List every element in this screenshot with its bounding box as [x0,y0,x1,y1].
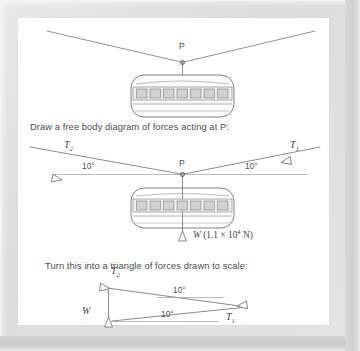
bus-window [137,89,148,98]
side-weight-arrowhead [105,317,113,327]
caption-triangle-of-forces: Turn this into a triangle of forces draw… [45,261,248,271]
bus-window [164,201,175,210]
figure-triangle-of-forces: T2 T1 W 10° 10° [18,276,329,325]
bus-window [137,201,148,210]
scan-frame-right-edge [345,0,360,351]
figure-suspended-bus: P [18,18,329,122]
vector-t2-arrowhead [51,174,62,184]
triangle-angle-label-bottom: 10° [161,309,174,319]
bus-window [204,89,215,98]
angle-label-right: 10° [245,161,258,171]
vector-t1-label: T1 [290,139,299,152]
point-p-label-top: P [179,41,185,51]
bus-window [191,201,202,210]
caption-free-body-diagram: Draw a free body diagram of forces actin… [30,122,229,132]
bus-window [177,201,188,210]
free-body-diagram-drawing [18,136,329,258]
bus-window [177,89,188,98]
point-p-label-fbd: P [179,158,185,168]
screenshot-root: P Draw a free body diagram of forces act… [0,0,360,351]
cable-left-line [47,31,181,62]
paper-content-area: P Draw a free body diagram of forces act… [18,18,329,325]
bus-window [164,89,175,98]
scan-frame-bottom-edge [0,336,360,351]
bus-window [191,89,202,98]
bus-body [131,188,234,228]
side-t1-label: T1 [226,311,235,324]
bus-window [150,89,161,98]
side-t2-label: T2 [111,265,120,278]
figure-free-body-diagram: T2 T1 10° 10° P W (1.1 × 104 N) [18,136,329,258]
point-p-marker [180,172,185,177]
angle-label-left: 10° [82,161,95,171]
bus-window-group [137,89,229,98]
suspended-bus-drawing [18,18,329,122]
weight-force-label: W (1.1 × 104 N) [193,228,253,240]
point-p-marker [180,60,184,64]
vector-t2-label: T2 [64,139,73,152]
bus-window-group [137,201,229,210]
vector-weight-arrowhead [179,231,187,241]
cable-right-line [184,31,315,62]
bus-body [131,75,234,117]
vector-t1-arrowhead [280,157,291,167]
bus-window [218,89,229,98]
triangle-angle-label-top: 10° [173,285,186,295]
bus-window [204,201,215,210]
side-weight-label: W [82,305,90,316]
vector-t2-line [30,147,181,174]
side-t1-arrowhead [237,301,248,310]
bus-window [150,201,161,210]
bus-window [218,201,229,210]
